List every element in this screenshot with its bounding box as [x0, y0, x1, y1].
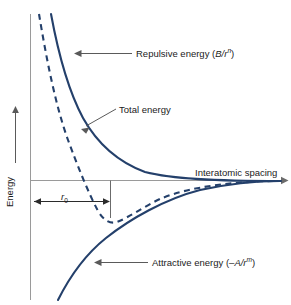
r0-subscript: 0: [64, 197, 68, 204]
total-leader-arrow-icon: [81, 128, 90, 134]
repulsive-label-close: ): [231, 48, 234, 59]
repulsive-label-text: Repulsive energy (: [136, 48, 216, 59]
total-energy-label: Total energy: [119, 104, 171, 115]
interatomic-energy-figure: Energy Interatomic spacing r0 Repulsive …: [0, 0, 291, 305]
x-axis-arrow-icon: [281, 177, 289, 184]
r0-left-arrow-icon: [34, 198, 41, 205]
r0-right-arrow-icon: [103, 198, 110, 205]
repulsive-energy-curve: [51, 14, 281, 181]
attractive-label-text: Attractive energy (: [152, 257, 230, 268]
y-axis-arrow-icon: [12, 106, 19, 113]
attractive-label-var: A: [233, 257, 240, 268]
attractive-leader-arrow-icon: [94, 259, 102, 266]
energy-curve-svg: Energy Interatomic spacing r0 Repulsive …: [0, 0, 291, 305]
repulsive-energy-label: Repulsive energy (B/rn): [136, 47, 234, 59]
repulsive-leader-arrow-icon: [74, 50, 82, 57]
attractive-energy-label: Attractive energy (–A/rm): [152, 256, 255, 268]
attractive-label-close: ): [252, 257, 255, 268]
total-leader-line: [86, 109, 116, 126]
total-energy-curve: [39, 14, 280, 223]
x-axis-label: Interatomic spacing: [195, 167, 277, 178]
r0-label: r0: [61, 191, 68, 204]
y-axis-label: Energy: [4, 177, 15, 207]
